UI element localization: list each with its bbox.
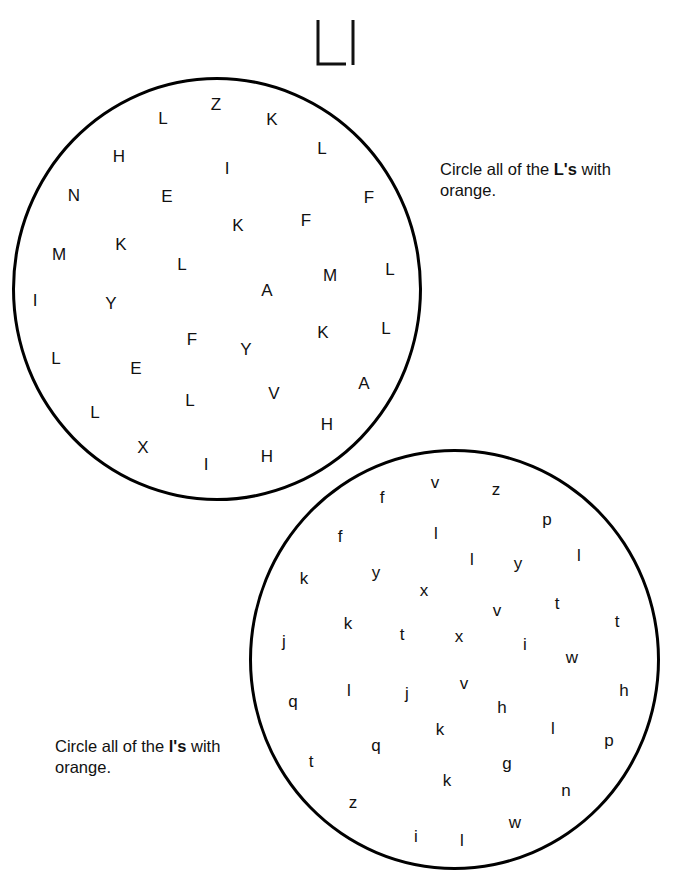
letter-l[interactable]: l [347, 682, 351, 699]
letter-v[interactable]: v [431, 474, 440, 491]
letter-t[interactable]: t [615, 613, 620, 630]
letter-h[interactable]: h [619, 682, 628, 699]
letter-E[interactable]: E [130, 360, 141, 377]
page-title: Ll [0, 0, 673, 80]
letter-F[interactable]: F [301, 212, 311, 229]
letter-i[interactable]: i [414, 828, 418, 845]
letter-x[interactable]: x [420, 582, 429, 599]
letter-p[interactable]: p [604, 732, 613, 749]
letter-L[interactable]: L [90, 404, 99, 421]
letter-k[interactable]: k [300, 570, 309, 587]
letter-F[interactable]: F [187, 331, 197, 348]
letter-t[interactable]: t [555, 595, 560, 612]
letter-t[interactable]: t [309, 753, 314, 770]
letter-M[interactable]: M [323, 267, 337, 284]
letter-t[interactable]: t [400, 626, 405, 643]
letter-k[interactable]: k [344, 615, 353, 632]
letter-I[interactable]: I [225, 160, 230, 177]
letter-n[interactable]: n [561, 782, 570, 799]
letter-Z[interactable]: Z [211, 96, 221, 113]
letter-i[interactable]: i [523, 636, 527, 653]
letter-j[interactable]: j [282, 633, 286, 650]
instruction-lowercase: Circle all of the l's with orange. [55, 736, 220, 778]
letter-g[interactable]: g [502, 755, 511, 772]
letter-f[interactable]: f [338, 528, 343, 545]
instruction-uppercase: Circle all of the L's with orange. [440, 159, 611, 201]
letter-H[interactable]: H [321, 416, 333, 433]
lowercase-letter-circle [249, 449, 660, 870]
letter-F[interactable]: F [364, 189, 374, 206]
letter-l[interactable]: l [551, 720, 555, 737]
letter-L[interactable]: L [158, 110, 167, 127]
letter-f[interactable]: f [380, 489, 385, 506]
letter-I[interactable]: I [204, 456, 209, 473]
letter-v[interactable]: v [460, 675, 469, 692]
letter-N[interactable]: N [68, 187, 80, 204]
letter-H[interactable]: H [113, 148, 125, 165]
letter-h[interactable]: h [497, 699, 506, 716]
letter-v[interactable]: v [493, 602, 502, 619]
letter-L[interactable]: L [177, 256, 186, 273]
letter-A[interactable]: A [358, 375, 369, 392]
letter-K[interactable]: K [232, 217, 243, 234]
letter-q[interactable]: q [288, 693, 297, 710]
letter-Y[interactable]: Y [240, 341, 251, 358]
letter-l[interactable]: l [460, 832, 464, 849]
letter-M[interactable]: M [52, 246, 66, 263]
letter-L[interactable]: L [317, 140, 326, 157]
letter-l[interactable]: l [470, 551, 474, 568]
letter-w[interactable]: w [509, 814, 521, 831]
target-letter: L's [554, 160, 577, 178]
letter-E[interactable]: E [161, 188, 172, 205]
letter-z[interactable]: z [349, 794, 358, 811]
letter-y[interactable]: y [372, 564, 381, 581]
letter-p[interactable]: p [542, 511, 551, 528]
letter-x[interactable]: x [455, 628, 464, 645]
letter-X[interactable]: X [137, 439, 148, 456]
letter-L[interactable]: L [51, 350, 60, 367]
letter-k[interactable]: k [443, 772, 452, 789]
letter-V[interactable]: V [268, 385, 279, 402]
letter-l[interactable]: l [577, 547, 581, 564]
letter-Y[interactable]: Y [105, 295, 116, 312]
letter-j[interactable]: j [405, 685, 409, 702]
letter-y[interactable]: y [514, 555, 523, 572]
uppercase-letter-circle [12, 77, 422, 501]
letter-L[interactable]: L [185, 392, 194, 409]
letter-w[interactable]: w [566, 649, 578, 666]
letter-l[interactable]: l [434, 525, 438, 542]
letter-q[interactable]: q [371, 737, 380, 754]
letter-L[interactable]: L [385, 261, 394, 278]
title-letters-Ll [0, 0, 673, 80]
letter-H[interactable]: H [261, 448, 273, 465]
letter-z[interactable]: z [492, 481, 501, 498]
letter-k[interactable]: k [436, 721, 445, 738]
target-letter: l's [169, 737, 187, 755]
letter-L[interactable]: L [381, 320, 390, 337]
letter-K[interactable]: K [266, 111, 277, 128]
letter-K[interactable]: K [115, 236, 126, 253]
letter-K[interactable]: K [317, 324, 328, 341]
letter-A[interactable]: A [261, 282, 272, 299]
letter-I[interactable]: I [33, 292, 38, 309]
